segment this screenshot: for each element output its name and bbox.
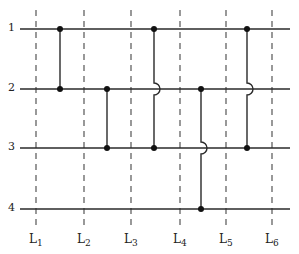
column-label-3: L3 xyxy=(124,233,138,248)
row-label-2: 2 xyxy=(8,82,15,93)
column-label-4: L4 xyxy=(173,233,187,248)
comparator-network-diagram: 1234L1L2L3L4L5L6 xyxy=(0,0,299,254)
column-label-1: L1 xyxy=(29,233,43,248)
column-label-5: L5 xyxy=(219,233,233,248)
connection-dot-4-bottom xyxy=(198,206,204,212)
connection-dot-5-bottom xyxy=(244,145,250,151)
connection-dot-5-top xyxy=(244,26,250,32)
connection-dot-3-bottom xyxy=(151,145,157,151)
row-label-3: 3 xyxy=(8,141,15,152)
connection-dot-1-top xyxy=(57,26,63,32)
row-label-4: 4 xyxy=(8,202,15,213)
row-label-1: 1 xyxy=(8,22,15,33)
connection-dot-1-bottom xyxy=(57,86,63,92)
column-label-6: L6 xyxy=(265,233,279,248)
connection-dot-4-top xyxy=(198,86,204,92)
column-label-2: L2 xyxy=(77,233,91,248)
connection-4 xyxy=(201,89,207,209)
diagram-canvas xyxy=(0,0,299,254)
connection-dot-3-top xyxy=(151,26,157,32)
connection-dot-2-top xyxy=(104,86,110,92)
connection-dot-2-bottom xyxy=(104,145,110,151)
